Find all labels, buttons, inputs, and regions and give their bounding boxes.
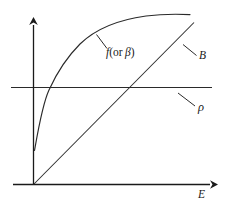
figure-canvas: f(or β) B ρ E [0,0,236,216]
curve-label-f-paren-close: ) [131,46,135,58]
f-saturating-curve [35,14,191,150]
arrow-right-icon [210,180,218,189]
rho-label-leader-line [178,93,195,106]
curve-label-f: f(or β) [106,47,135,59]
x-axis-label: E [198,189,205,201]
b-label-leader-line [183,45,197,56]
arrow-up-icon [29,17,38,25]
constant-label-rho: ρ [198,101,204,114]
line-label-b: B [199,50,206,62]
curve-label-f-paren-open: (or [109,46,125,58]
